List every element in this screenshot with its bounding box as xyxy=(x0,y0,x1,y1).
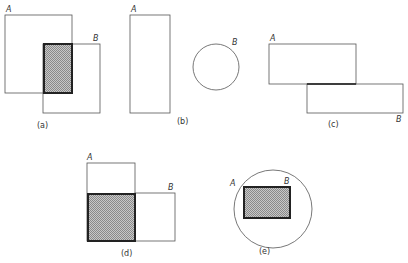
set-a-rect xyxy=(269,44,356,84)
set-a-rect xyxy=(130,15,170,113)
label-a: A xyxy=(86,153,92,162)
label-b: B xyxy=(284,177,290,186)
label-b: B xyxy=(232,38,238,47)
set-relations-diagram: A B (a) A B (b) A B (c) A B (d) A B (e) xyxy=(0,0,408,263)
set-b-circle xyxy=(193,44,239,90)
panel-e: A B (e) xyxy=(229,170,312,256)
caption-c: (c) xyxy=(328,120,339,129)
caption-d: (d) xyxy=(121,249,132,258)
label-a: A xyxy=(5,5,11,14)
label-a: A xyxy=(269,34,275,43)
set-b-rect xyxy=(135,193,175,241)
label-a: A xyxy=(130,5,136,14)
label-b: B xyxy=(396,115,402,124)
set-b-shaded xyxy=(244,187,290,218)
caption-a: (a) xyxy=(37,121,48,130)
label-b: B xyxy=(168,183,174,192)
set-b-rect xyxy=(307,84,403,113)
panel-b: A B (b) xyxy=(130,5,239,126)
intersection-shaded xyxy=(44,44,72,93)
caption-b: (b) xyxy=(177,117,188,126)
label-a: A xyxy=(229,179,235,188)
shared-shaded xyxy=(88,194,135,241)
label-b: B xyxy=(93,34,99,43)
caption-e: (e) xyxy=(259,247,270,256)
panel-d: A B (d) xyxy=(86,153,175,258)
panel-c: A B (c) xyxy=(269,34,403,129)
panel-a: A B (a) xyxy=(5,5,100,130)
